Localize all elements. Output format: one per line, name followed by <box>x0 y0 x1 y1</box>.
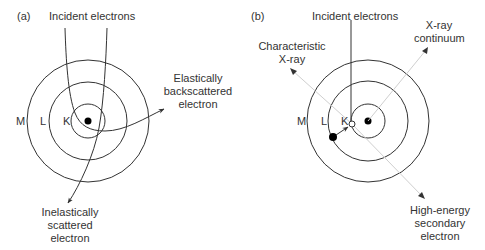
xray-continuum-label: X-ray continuum <box>414 19 464 45</box>
characteristic-xray-label: Characteristic X-ray <box>255 40 329 66</box>
shell-l-label-a: L <box>40 115 46 128</box>
shell-k-label-b: K <box>341 115 348 128</box>
incident-electrons-label-a: Incident electrons <box>49 10 135 23</box>
shell-k-label-a: K <box>63 115 70 128</box>
shell-l-label-b: L <box>321 115 327 128</box>
xray-continuum-arrow-icon <box>422 47 428 54</box>
nucleus-a <box>85 118 92 125</box>
l-shell-electron <box>329 133 337 141</box>
electron-interaction-diagram: (a) Incident electrons M L K Elastically… <box>0 0 485 250</box>
shell-m-label-b: M <box>297 115 306 128</box>
inelastic-label: Inelastically scattered electron <box>33 206 107 245</box>
panel-a-label: (a) <box>17 10 30 23</box>
inelastic-path <box>68 28 107 203</box>
panel-a-atom <box>27 28 164 203</box>
incident-electrons-label-b: Incident electrons <box>312 10 398 23</box>
secondary-electron-line <box>352 124 422 196</box>
secondary-electron-label: High-energy secondary electron <box>405 204 475 243</box>
transition-arrow <box>336 127 348 135</box>
elastic-label: Elastically backscattered electron <box>158 72 238 111</box>
shell-m-label-a: M <box>16 115 25 128</box>
vacancy-circle <box>349 121 355 127</box>
panel-b-label: (b) <box>251 10 264 23</box>
